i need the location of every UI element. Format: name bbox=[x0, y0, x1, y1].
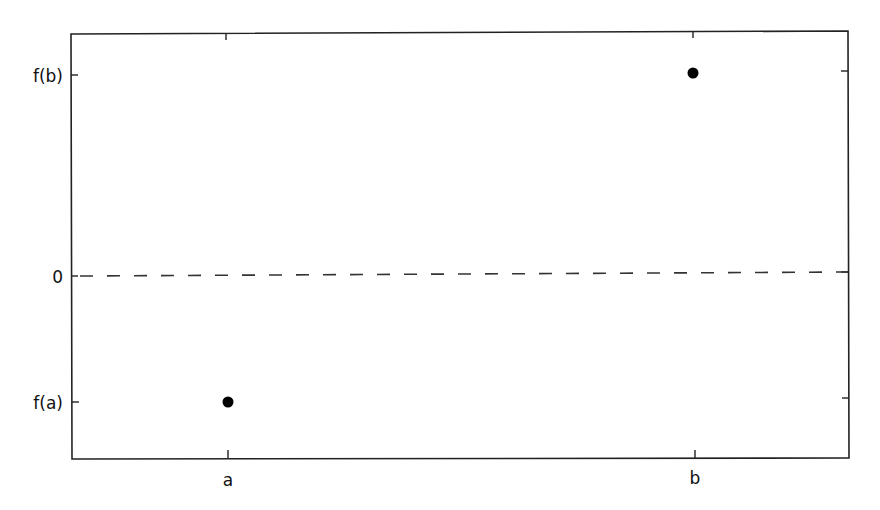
y-tick-label-zero: 0 bbox=[52, 267, 63, 287]
chart: f(b) 0 f(a) a b bbox=[0, 0, 880, 510]
x-tick-label-a: a bbox=[223, 470, 233, 490]
zero-reference-line bbox=[80, 272, 848, 276]
y-tick-label-fa: f(a) bbox=[33, 393, 63, 413]
y-tick-label-fb: f(b) bbox=[33, 66, 63, 86]
x-ticks-bottom bbox=[228, 450, 695, 458]
plot-frame bbox=[71, 31, 849, 459]
data-point-a bbox=[223, 397, 234, 408]
data-point-b bbox=[688, 68, 699, 79]
x-tick-label-b: b bbox=[690, 468, 701, 488]
